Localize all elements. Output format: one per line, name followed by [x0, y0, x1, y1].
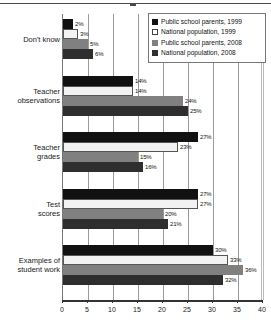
bar-row: 36% — [63, 265, 261, 275]
bar[interactable] — [63, 189, 198, 199]
x-axis-tick-label: 20 — [158, 305, 166, 315]
category-label-line: Don't know — [2, 35, 60, 44]
bar[interactable] — [63, 265, 243, 275]
category-label: Don't know — [2, 35, 60, 44]
bar-value-label: 16% — [145, 163, 156, 171]
bar-value-label: 33% — [230, 256, 241, 264]
category-label: Testscores — [2, 200, 60, 218]
x-axis-tick — [162, 300, 163, 303]
bar-row: 21% — [63, 219, 261, 229]
bar[interactable] — [63, 199, 198, 209]
bar-value-label: 6% — [95, 50, 103, 58]
bar-value-label: 23% — [180, 143, 191, 151]
x-axis-tick — [237, 300, 238, 303]
bar-value-label: 27% — [200, 190, 211, 198]
x-axis-tick-label: 40 — [258, 305, 266, 315]
bar[interactable] — [63, 245, 213, 255]
bar[interactable] — [63, 29, 78, 39]
x-axis-tick-label: 10 — [108, 305, 116, 315]
legend-item[interactable]: Public school parents, 1999 — [152, 17, 262, 27]
legend-item-label: Public school parents, 2008 — [161, 39, 242, 47]
bar[interactable] — [63, 162, 143, 172]
bar[interactable] — [63, 275, 223, 285]
bar[interactable] — [63, 152, 138, 162]
page-divider-tick — [130, 3, 136, 6]
chart-legend: Public school parents, 1999National popu… — [148, 13, 266, 63]
bar[interactable] — [63, 96, 183, 106]
bar-row: 27% — [63, 132, 261, 142]
x-axis-tick — [187, 300, 188, 303]
category-label-line: Examples of — [2, 256, 60, 265]
bar-row: 27% — [63, 199, 261, 209]
x-axis-tick-label: 5 — [85, 305, 89, 315]
bar-row: 16% — [63, 162, 261, 172]
bar[interactable] — [63, 49, 93, 59]
bar-row: 23% — [63, 142, 261, 152]
category-label-line: Teacher — [2, 143, 60, 152]
x-axis-tick-label: 35 — [233, 305, 241, 315]
category-label: Examples ofstudent work — [2, 256, 60, 274]
bar-value-label: 14% — [135, 87, 146, 95]
x-axis-line — [62, 300, 262, 302]
black-square-icon — [152, 19, 158, 25]
category-label: Teacherobservations — [2, 87, 60, 105]
bar[interactable] — [63, 142, 178, 152]
page-divider-rule — [0, 3, 271, 4]
category-label-line: student work — [2, 265, 60, 274]
legend-item[interactable]: National population, 1999 — [152, 27, 262, 37]
bar[interactable] — [63, 132, 198, 142]
category-label-line: observations — [2, 96, 60, 105]
legend-item[interactable]: National population, 2008 — [152, 48, 262, 58]
bar-value-label: 30% — [215, 246, 226, 254]
bar-value-label: 24% — [185, 97, 196, 105]
bar[interactable] — [63, 76, 133, 86]
bar-row: 25% — [63, 106, 261, 116]
category-label-line: Teacher — [2, 87, 60, 96]
x-axis-tick — [87, 300, 88, 303]
bar-group: 27%27%20%21% — [63, 189, 261, 229]
bar-value-label: 2% — [75, 20, 83, 28]
bar-row: 14% — [63, 76, 261, 86]
category-axis-labels: Don't knowTeacherobservationsTeachergrad… — [0, 14, 60, 300]
x-axis-tick — [212, 300, 213, 303]
category-label-line: grades — [2, 152, 60, 161]
white-square-icon — [152, 29, 158, 35]
bar-value-label: 36% — [245, 266, 256, 274]
bar-group: 14%14%24%25% — [63, 76, 261, 116]
bar-group: 27%23%15%16% — [63, 132, 261, 172]
bar[interactable] — [63, 209, 163, 219]
bar-row: 14% — [63, 86, 261, 96]
bar-value-label: 27% — [200, 200, 211, 208]
legend-item-label: Public school parents, 1999 — [161, 18, 242, 26]
bar[interactable] — [63, 39, 88, 49]
x-axis-tick-label: 0 — [60, 305, 64, 315]
bar-value-label: 27% — [200, 133, 211, 141]
bar[interactable] — [63, 255, 228, 265]
legend-item[interactable]: Public school parents, 2008 — [152, 38, 262, 48]
bar-row: 27% — [63, 189, 261, 199]
bar[interactable] — [63, 86, 133, 96]
bar-row: 30% — [63, 245, 261, 255]
legend-item-label: National population, 1999 — [161, 28, 236, 36]
x-axis-tick-label: 15 — [133, 305, 141, 315]
bar[interactable] — [63, 106, 188, 116]
bar-value-label: 21% — [170, 220, 181, 228]
x-axis-tick — [137, 300, 138, 303]
x-axis-tick-labels: 0510152025303540 — [0, 305, 271, 319]
x-axis-tick — [62, 300, 63, 303]
bar-value-label: 20% — [165, 210, 176, 218]
bar-value-label: 25% — [190, 107, 201, 115]
bar[interactable] — [63, 219, 168, 229]
bar-value-label: 3% — [80, 30, 88, 38]
bar[interactable] — [63, 19, 73, 29]
x-axis-tick-label: 30 — [208, 305, 216, 315]
bar-value-label: 32% — [225, 276, 236, 284]
dark-gray-square-icon — [152, 50, 158, 56]
bar-row: 33% — [63, 255, 261, 265]
x-axis-tick — [112, 300, 113, 303]
category-label: Teachergrades — [2, 143, 60, 161]
x-axis-tick-label: 25 — [183, 305, 191, 315]
category-label-line: Test — [2, 200, 60, 209]
bar-group: 30%33%36%32% — [63, 245, 261, 285]
x-axis-tick — [262, 300, 263, 303]
